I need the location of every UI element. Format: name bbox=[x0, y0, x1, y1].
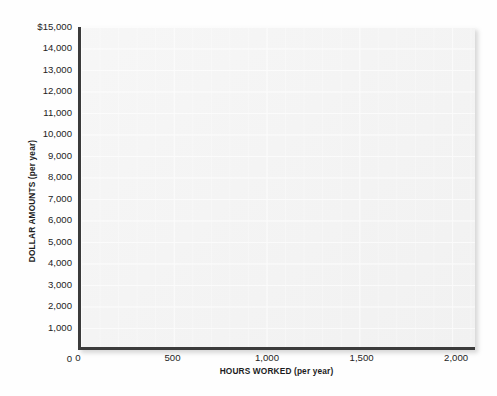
y-tick-label: 3,000 bbox=[0, 279, 72, 290]
y-tick-label: 7,000 bbox=[0, 193, 72, 204]
y-tick-label: 8,000 bbox=[0, 171, 72, 182]
x-tick-label: 1,500 bbox=[322, 352, 402, 363]
y-tick-label: 6,000 bbox=[0, 214, 72, 225]
y-tick-label: $15,000 bbox=[0, 21, 72, 32]
y-tick-label: 14,000 bbox=[0, 42, 72, 53]
x-tick-label: 500 bbox=[133, 352, 213, 363]
y-tick-label: 4,000 bbox=[0, 257, 72, 268]
x-tick-label: 2,000 bbox=[416, 352, 496, 363]
x-tick-label: 0 bbox=[38, 352, 118, 363]
y-tick-label: 5,000 bbox=[0, 236, 72, 247]
y-tick-label: 12,000 bbox=[0, 85, 72, 96]
grid-lines bbox=[81, 27, 475, 347]
y-tick-label: 2,000 bbox=[0, 300, 72, 311]
y-tick-label: 11,000 bbox=[0, 107, 72, 118]
y-tick-label: 9,000 bbox=[0, 150, 72, 161]
y-tick-label: 1,000 bbox=[0, 322, 72, 333]
x-axis-title: HOURS WORKED (per year) bbox=[78, 366, 475, 376]
blank-graph-figure: DOLLAR AMOUNTS (per year) 1,0002,0003,00… bbox=[0, 0, 497, 396]
y-tick-label: 13,000 bbox=[0, 64, 72, 75]
plot-area bbox=[78, 27, 475, 350]
x-tick-label: 1,000 bbox=[227, 352, 307, 363]
y-tick-label: 10,000 bbox=[0, 128, 72, 139]
